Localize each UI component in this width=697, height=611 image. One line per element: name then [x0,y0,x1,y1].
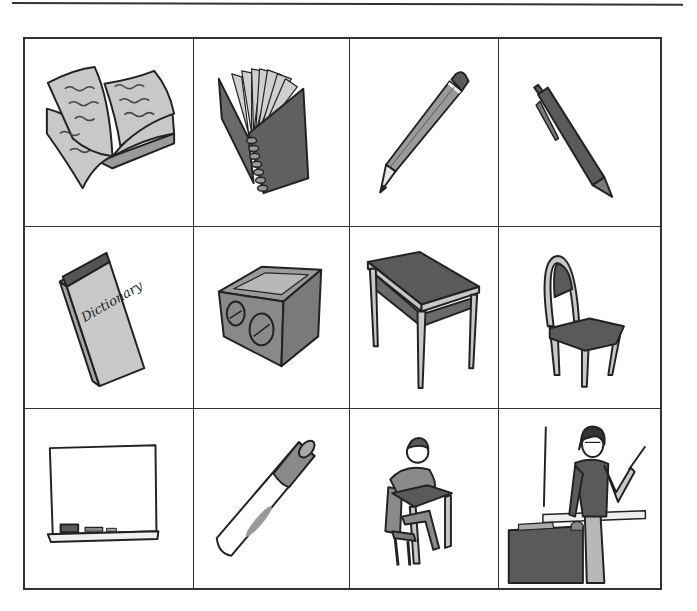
chair-icon [499,227,660,408]
open-book-icon [25,39,193,226]
cell-pen: pen [499,39,660,227]
desk-icon [350,227,498,408]
pencil-icon [350,39,498,226]
cell-dictionary: dictionary Dictionary [25,227,194,409]
pen-icon [499,39,660,226]
cell-chair: chair [499,227,660,409]
cell-pencil: pencil [350,39,499,227]
cell-pencil-sharpener: pencil sharpener [194,227,350,409]
whiteboard-icon [25,409,193,588]
marker-icon [194,409,349,588]
cell-notebook: notebook [194,39,350,227]
cell-desk: desk [350,227,499,409]
teacher-icon [499,409,660,588]
cell-book: book [25,39,194,227]
student-icon [350,409,498,588]
spiral-notebook-icon [194,39,349,226]
dictionary-icon: Dictionary [25,227,193,408]
sharpener-icon [194,227,349,408]
cell-board: board [25,409,194,588]
cell-teacher: teacher [499,409,660,588]
cell-marker: marker [194,409,350,588]
top-rule [12,2,683,6]
picture-grid: book notebook [23,37,662,590]
cell-student: student [350,409,499,588]
